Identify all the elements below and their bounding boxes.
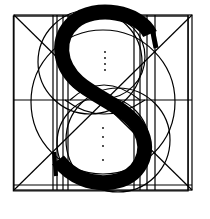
letter-construction-diagram: S xyxy=(0,0,210,219)
construction-drawing xyxy=(0,0,210,219)
